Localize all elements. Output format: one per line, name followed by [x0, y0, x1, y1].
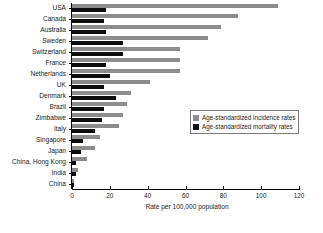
- x-tick-label: 120: [294, 192, 305, 199]
- category-label: China: [49, 180, 66, 187]
- bar-group: [72, 25, 302, 36]
- bar-mortality: [72, 129, 95, 133]
- category-label: Netherlands: [30, 70, 66, 77]
- x-tick: [186, 186, 187, 189]
- legend-label-incidence: Age-standardized incidence rates: [202, 114, 295, 121]
- chart-legend: Age-standardized incidence rates Age-sta…: [190, 110, 299, 134]
- category-label: India: [52, 169, 66, 176]
- bar-incidence: [72, 179, 74, 183]
- category-label: Denmark: [39, 92, 66, 99]
- legend-item-mortality: Age-standardized mortality rates: [193, 122, 295, 131]
- bar-group: [72, 145, 302, 156]
- bar-incidence: [72, 124, 119, 128]
- bar-group: [72, 178, 302, 189]
- bar-group: [72, 36, 302, 47]
- bar-mortality: [72, 19, 104, 23]
- bar-mortality: [72, 74, 110, 78]
- bar-mortality: [72, 161, 76, 165]
- bar-mortality: [72, 63, 106, 67]
- bar-group: [72, 167, 302, 178]
- bar-incidence: [72, 113, 123, 117]
- bar-incidence: [72, 14, 238, 18]
- category-label: France: [45, 59, 66, 66]
- bar-incidence: [72, 102, 127, 106]
- plot-area: [72, 3, 302, 189]
- category-label: Australia: [40, 26, 66, 33]
- value-axis-line: [72, 189, 300, 190]
- bar-incidence: [72, 25, 221, 29]
- x-tick: [261, 186, 262, 189]
- bar-incidence: [72, 36, 208, 40]
- bar-mortality: [72, 96, 116, 100]
- category-label: Italy: [54, 125, 66, 132]
- bar-mortality: [72, 8, 106, 12]
- bar-group: [72, 80, 302, 91]
- bar-mortality: [72, 139, 83, 143]
- mortality-swatch-icon: [193, 124, 199, 130]
- legend-item-incidence: Age-standardized incidence rates: [193, 113, 295, 122]
- bar-mortality: [72, 118, 102, 122]
- bar-incidence: [72, 80, 150, 84]
- x-tick: [110, 186, 111, 189]
- bar-group: [72, 47, 302, 58]
- bar-incidence: [72, 69, 180, 73]
- bar-group: [72, 3, 302, 14]
- bar-incidence: [72, 157, 87, 161]
- bar-incidence: [72, 135, 100, 139]
- bar-incidence: [72, 146, 95, 150]
- bar-mortality: [72, 107, 104, 111]
- x-tick-label: 80: [220, 192, 227, 199]
- bar-incidence: [72, 168, 78, 172]
- bar-group: [72, 91, 302, 102]
- bar-incidence: [72, 4, 278, 8]
- bar-incidence: [72, 91, 131, 95]
- x-tick: [148, 186, 149, 189]
- category-label: Canada: [43, 15, 66, 22]
- bar-mortality: [72, 52, 123, 56]
- bar-mortality: [72, 85, 104, 89]
- bar-incidence: [72, 58, 180, 62]
- bar-mortality: [72, 30, 106, 34]
- x-tick-label: 40: [144, 192, 151, 199]
- x-tick: [223, 186, 224, 189]
- x-tick-label: 20: [106, 192, 113, 199]
- x-axis-title: Rate per 100,000 population: [72, 203, 302, 210]
- category-label: Switzerland: [32, 48, 66, 55]
- x-tick: [299, 186, 300, 189]
- x-tick-label: 60: [182, 192, 189, 199]
- category-label: Singapore: [36, 136, 66, 143]
- bar-mortality: [72, 150, 81, 154]
- legend-label-mortality: Age-standardized mortality rates: [202, 123, 293, 130]
- x-tick: [72, 186, 73, 189]
- x-tick-label: 0: [70, 192, 74, 199]
- bar-mortality: [72, 41, 123, 45]
- bar-group: [72, 69, 302, 80]
- bar-group: [72, 134, 302, 145]
- bar-incidence: [72, 47, 180, 51]
- category-label: Brazil: [50, 103, 67, 110]
- category-label: USA: [52, 4, 66, 11]
- bar-chart: USACanadaAustraliaSwedenSwitzerlandFranc…: [0, 0, 323, 233]
- category-label: Zimbabwe: [36, 114, 66, 121]
- incidence-swatch-icon: [193, 115, 199, 121]
- bar-group: [72, 14, 302, 25]
- bar-group: [72, 58, 302, 69]
- value-axis: Rate per 100,000 population 020406080100…: [72, 189, 302, 211]
- bar-group: [72, 156, 302, 167]
- category-label: China, Hong Kong: [12, 158, 66, 165]
- category-label: Japan: [48, 147, 66, 154]
- category-label: UK: [57, 81, 66, 88]
- category-label: Sweden: [42, 37, 66, 44]
- bar-mortality: [72, 172, 76, 176]
- x-tick-label: 100: [256, 192, 267, 199]
- category-axis: USACanadaAustraliaSwedenSwitzerlandFranc…: [0, 3, 69, 189]
